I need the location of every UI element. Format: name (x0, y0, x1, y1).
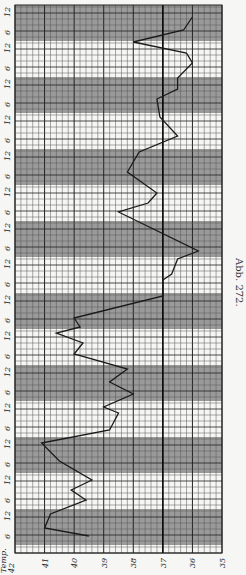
time-tick-label: 6 (3, 534, 12, 539)
time-tick-label: 6 (3, 30, 12, 35)
temperature-axis-labels: 4140393837363542 (7, 557, 227, 574)
temp-tick-label: 41 (41, 558, 50, 569)
time-tick-label: 6 (3, 246, 12, 251)
time-tick-label: 6 (3, 174, 12, 179)
time-tick-label: 12 (3, 511, 12, 521)
time-tick-label: 6 (3, 318, 12, 323)
night-bands (15, 5, 222, 553)
time-tick-label: 12 (3, 403, 12, 413)
temp-tick-label: 37 (159, 557, 168, 568)
time-tick-label: 6 (3, 102, 12, 107)
night-band (15, 365, 222, 401)
temp-axis-title: Temp. (0, 548, 8, 573)
temp-tick-label: 36 (188, 558, 197, 568)
time-tick-label: 12 (3, 7, 12, 17)
time-tick-label: 12 (3, 475, 12, 485)
time-tick-label: 12 (3, 79, 12, 89)
night-band (15, 77, 222, 113)
time-tick-label: 6 (3, 498, 12, 503)
time-tick-label: 12 (3, 187, 12, 197)
temp-tick-label: 39 (100, 558, 109, 568)
time-tick-label: 12 (3, 295, 12, 305)
night-band (15, 149, 222, 185)
time-tick-label: 6 (3, 354, 12, 359)
night-band (15, 5, 222, 41)
time-tick-label: 6 (3, 138, 12, 143)
time-tick-label: 6 (3, 462, 12, 467)
temp-tick-label: 42 (7, 563, 16, 574)
time-tick-label: 12 (3, 439, 12, 449)
time-tick-label: 12 (3, 151, 12, 161)
time-tick-label: 6 (3, 66, 12, 71)
night-band (15, 221, 222, 257)
temp-tick-label: 38 (129, 558, 138, 568)
time-tick-label: 6 (3, 390, 12, 395)
temp-tick-label: 35 (218, 558, 227, 568)
night-band (15, 509, 222, 545)
time-tick-label: 12 (3, 115, 12, 125)
time-tick-label: 6 (3, 210, 12, 215)
temperature-chart: 6126126126126126126126126126126126126126… (0, 0, 246, 575)
time-axis-labels: 6126126126126126126126126126126126126126… (3, 7, 12, 539)
time-tick-label: 12 (3, 367, 12, 377)
time-tick-label: 12 (3, 223, 12, 233)
time-tick-label: 6 (3, 282, 12, 287)
time-tick-label: 12 (3, 43, 12, 53)
time-tick-label: 12 (3, 331, 12, 341)
figure-caption: Abb. 272. (234, 257, 245, 307)
time-tick-label: 6 (3, 426, 12, 431)
night-band (15, 293, 222, 329)
temp-tick-label: 40 (70, 558, 79, 569)
time-tick-label: 12 (3, 259, 12, 269)
